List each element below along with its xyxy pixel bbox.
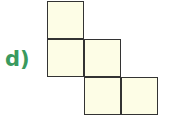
net-square <box>47 39 84 77</box>
net-square <box>84 77 121 115</box>
net-square <box>84 39 121 77</box>
net-square <box>121 77 158 115</box>
net-square <box>47 1 84 39</box>
problem-label: d) <box>5 49 30 70</box>
